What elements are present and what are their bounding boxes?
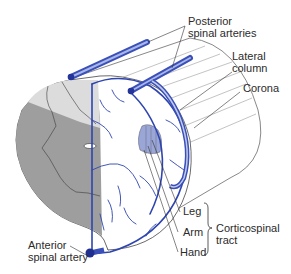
central-canal [84,144,96,149]
label-posterior-spinal-arteries: Posterior spinal arteries [188,15,256,39]
label-anterior-spinal-artery: Anterior spinal artery [28,239,88,263]
spinal-cord-diagram: Posterior spinal arteries Lateral column… [0,0,291,274]
label-leg: Leg [183,205,201,217]
label-arm: Arm [183,226,203,238]
label-lateral-column: Lateral column [232,50,267,74]
anterior-spinal-artery [86,249,105,258]
label-hand: Hand [180,246,206,258]
label-corticospinal-tract: Corticospinal tract [216,222,280,246]
label-corona: Corona [243,82,279,94]
